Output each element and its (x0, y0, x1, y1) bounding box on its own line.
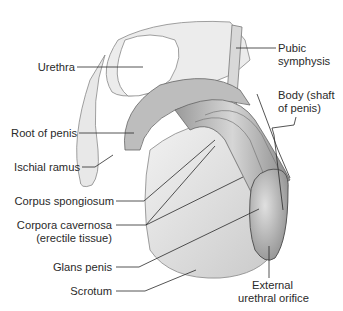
label-body-1: Body (shaft (278, 89, 335, 102)
label-root: Root of penis (0, 127, 77, 140)
anatomy-diagram: Urethra Pubic symphysis Body (shaft of p… (0, 0, 343, 311)
label-external-orifice-1: External (252, 279, 293, 292)
label-corpora-cavernosa-1: Corpora cavernosa (0, 219, 112, 232)
label-ischial-ramus: Ischial ramus (0, 161, 80, 174)
label-body-2: of penis) (278, 102, 321, 115)
label-pubic-symphysis-2: symphysis (278, 55, 330, 68)
label-pubic-symphysis-1: Pubic (278, 42, 306, 55)
label-glans: Glans penis (0, 261, 112, 274)
label-scrotum: Scrotum (0, 285, 112, 298)
label-external-orifice-2: urethral orifice (238, 292, 309, 305)
label-corpora-cavernosa-2: (erectile tissue) (0, 232, 112, 245)
label-corpus-spongiosum: Corpus spongiosum (0, 195, 114, 208)
label-urethra: Urethra (30, 61, 75, 74)
